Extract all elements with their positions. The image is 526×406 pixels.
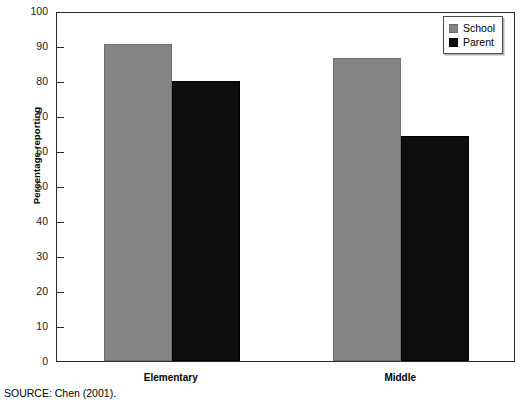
bar-middle-parent (401, 136, 469, 361)
y-tick-label: 60 (0, 145, 48, 157)
legend-swatch-school-icon (449, 24, 458, 33)
legend-label: School (463, 22, 495, 35)
y-tick-label: 70 (0, 110, 48, 122)
bar-elementary-parent (172, 81, 240, 361)
y-tick-mark (57, 47, 64, 48)
y-tick-mark (57, 152, 64, 153)
legend-label: Parent (463, 36, 494, 49)
y-tick-label: 50 (0, 180, 48, 192)
y-tick-label: 40 (0, 215, 48, 227)
legend-swatch-parent-icon (449, 38, 458, 47)
bars-container (57, 13, 514, 361)
y-tick-mark (57, 292, 64, 293)
bar-chart-figure: Percentage reporting 0102030405060708090… (0, 0, 526, 406)
x-axis-label-middle: Middle (286, 372, 516, 383)
y-tick-mark (57, 327, 64, 328)
y-tick-mark (57, 257, 64, 258)
y-tick-label: 10 (0, 320, 48, 332)
x-axis-label-elementary: Elementary (56, 372, 286, 383)
y-tick-mark (57, 82, 64, 83)
y-tick-label: 20 (0, 285, 48, 297)
y-tick-label: 0 (0, 355, 48, 367)
y-tick-mark (57, 187, 64, 188)
legend-item-school: School (449, 21, 495, 35)
y-tick-mark (57, 222, 64, 223)
source-note: SOURCE: Chen (2001). (4, 387, 116, 399)
bar-elementary-school (104, 44, 172, 361)
y-tick-label: 90 (0, 40, 48, 52)
plot-area (56, 12, 515, 362)
legend-item-parent: Parent (449, 35, 495, 49)
bar-middle-school (333, 58, 401, 361)
y-tick-label: 30 (0, 250, 48, 262)
chart-legend: SchoolParent (443, 16, 503, 54)
y-tick-label: 80 (0, 75, 48, 87)
y-tick-label: 100 (0, 5, 48, 17)
y-tick-mark (57, 117, 64, 118)
